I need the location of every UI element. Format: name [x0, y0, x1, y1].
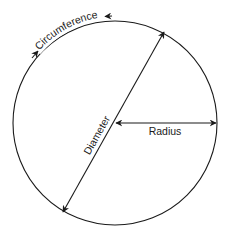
- circle-diagram: Circumference Diameter Radius: [0, 0, 225, 235]
- circumference-arrow-right: [105, 16, 112, 17]
- diameter-line: [63, 32, 164, 212]
- diagram-svg: Circumference Diameter Radius: [0, 0, 225, 235]
- radius-label: Radius: [149, 125, 182, 137]
- diameter-label: Diameter: [81, 113, 113, 156]
- circumference-label: Circumference: [32, 8, 99, 52]
